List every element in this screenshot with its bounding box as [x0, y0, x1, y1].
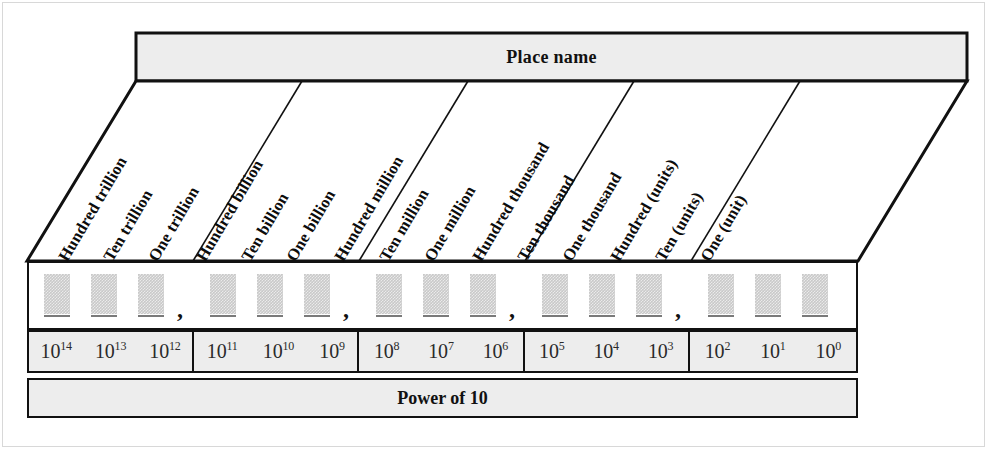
place-labels-layer: Hundred trillion Ten trillion One trilli… [0, 0, 989, 451]
place-value-chart: Place name Hundred trillion Ten trillion… [0, 0, 989, 451]
